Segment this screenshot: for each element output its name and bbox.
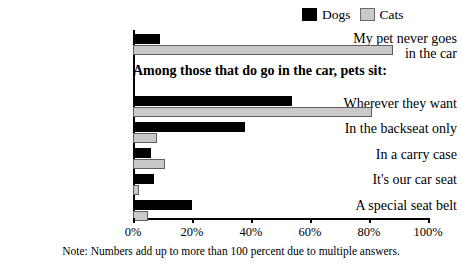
x-tick-label-80: 80% [358, 225, 381, 240]
x-tick-80 [369, 218, 371, 223]
legend-label-cats: Cats [380, 8, 404, 22]
x-tick-label-60: 60% [299, 225, 322, 240]
bar-dogs-car-seat [133, 174, 154, 184]
chart-container: Dogs Cats Among those that do go in the … [0, 0, 462, 267]
bar-cats-car-seat [133, 185, 139, 195]
bar-group-never-goes [133, 34, 428, 58]
bar-dogs-never-goes [133, 34, 160, 44]
bar-cats-wherever [133, 107, 372, 117]
x-tick-label-0: 0% [125, 225, 142, 240]
x-tick-20 [192, 218, 194, 223]
bar-group-seat-belt [133, 200, 428, 224]
bar-dogs-seat-belt [133, 200, 192, 210]
bar-group-backseat [133, 122, 428, 146]
x-tick-label-100: 100% [413, 225, 442, 240]
bar-group-carry-case [133, 148, 428, 172]
black-square-icon [302, 8, 317, 21]
gray-square-icon [360, 8, 375, 21]
plot-area: 0%20%40%60%80%100% [133, 30, 428, 218]
bar-dogs-backseat [133, 122, 245, 132]
chart-footnote: Note: Numbers add up to more than 100 pe… [0, 245, 462, 257]
x-tick-40 [251, 218, 253, 223]
bar-cats-backseat [133, 133, 157, 143]
bar-cats-seat-belt [133, 211, 148, 221]
legend-item-cats: Cats [360, 8, 404, 22]
bar-group-car-seat [133, 174, 428, 198]
x-tick-100 [428, 218, 430, 223]
legend-label-dogs: Dogs [322, 8, 351, 22]
bar-cats-carry-case [133, 159, 165, 169]
bar-cats-never-goes [133, 45, 393, 55]
bar-group-wherever [133, 96, 428, 120]
x-tick-label-20: 20% [181, 225, 204, 240]
bar-dogs-wherever [133, 96, 292, 106]
legend-item-dogs: Dogs [302, 8, 351, 22]
x-tick-label-40: 40% [240, 225, 263, 240]
bar-dogs-carry-case [133, 148, 151, 158]
chart-legend: Dogs Cats [302, 8, 404, 22]
x-tick-60 [310, 218, 312, 223]
x-tick-0 [133, 218, 135, 223]
